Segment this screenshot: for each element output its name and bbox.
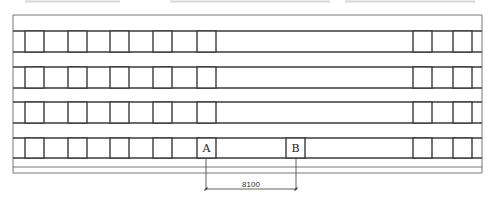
column-box: [25, 102, 44, 123]
structural-plan-drawing: AB 8100: [0, 0, 492, 203]
dimension-line: 8100: [205, 159, 298, 191]
column-box: [413, 138, 432, 158]
column-box: [110, 67, 129, 88]
column-box: [413, 102, 432, 123]
column-box: [68, 67, 87, 88]
column-box: [453, 31, 472, 52]
marker-label-a: A: [202, 142, 212, 155]
column-box: [25, 31, 44, 52]
column-box: [68, 138, 87, 158]
column-box: [413, 31, 432, 52]
column-box: [25, 138, 44, 158]
column-box: [110, 138, 129, 158]
column-box: [68, 31, 87, 52]
column-box: [413, 67, 432, 88]
column-box: [153, 67, 172, 88]
column-box: [153, 31, 172, 52]
column-box: [453, 67, 472, 88]
column-box: [110, 31, 129, 52]
columns: [25, 31, 472, 158]
column-box: [153, 102, 172, 123]
column-box: [153, 138, 172, 158]
markers: AB: [197, 138, 305, 158]
column-box: [110, 102, 129, 123]
column-box: [453, 102, 472, 123]
column-box: [197, 102, 216, 123]
column-box: [25, 67, 44, 88]
column-box: [453, 138, 472, 158]
marker-label-b: B: [291, 142, 299, 155]
column-box: [197, 31, 216, 52]
dimension-value: 8100: [242, 180, 260, 189]
column-box: [68, 102, 87, 123]
column-box: [197, 67, 216, 88]
